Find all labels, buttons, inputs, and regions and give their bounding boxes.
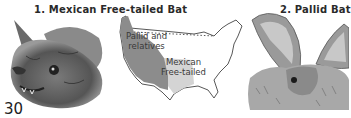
map-label-mexican: Mexican Free-tailed: [161, 57, 206, 77]
label-line: Pallid and: [126, 31, 167, 41]
page-number: 30: [4, 100, 23, 118]
mexican-free-tailed-bat-illustration: [4, 12, 116, 112]
label-line: Free-tailed: [161, 67, 206, 77]
label-line: Mexican: [161, 57, 206, 67]
label-line: relatives: [126, 41, 167, 51]
map-label-pallid: Pallid and relatives: [126, 31, 167, 51]
pallid-bat-illustration: [246, 8, 349, 110]
